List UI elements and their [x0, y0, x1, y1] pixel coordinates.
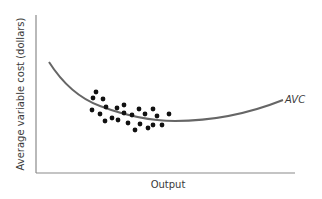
- x-axis-label: Output: [151, 179, 186, 190]
- data-point: [146, 126, 151, 131]
- data-point: [116, 118, 121, 123]
- avc-curve: [49, 62, 283, 121]
- data-point: [167, 112, 172, 117]
- data-point: [104, 105, 109, 110]
- data-point: [151, 107, 156, 112]
- data-point: [122, 103, 127, 108]
- data-point: [110, 116, 115, 121]
- data-point: [133, 128, 138, 133]
- data-point: [98, 112, 103, 117]
- avc-scatter-chart: AVC Output Average variable cost (dollar…: [0, 0, 322, 199]
- avc-curve-label: AVC: [284, 94, 305, 105]
- data-point: [103, 119, 108, 124]
- data-point: [138, 122, 143, 127]
- data-point: [101, 97, 106, 102]
- data-point: [137, 107, 142, 112]
- data-point: [126, 121, 131, 126]
- y-axis-label: Average variable cost (dollars): [15, 17, 26, 170]
- data-point: [130, 113, 135, 118]
- data-point: [91, 96, 96, 101]
- data-point: [143, 112, 148, 117]
- data-point: [160, 123, 165, 128]
- data-point: [155, 114, 160, 119]
- observation-points: [90, 90, 172, 133]
- data-point: [90, 108, 95, 113]
- data-point: [151, 123, 156, 128]
- data-point: [122, 111, 127, 116]
- data-point: [94, 90, 99, 95]
- data-point: [115, 106, 120, 111]
